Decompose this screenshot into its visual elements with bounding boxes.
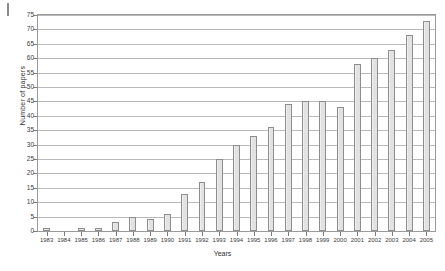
x-axis-tick-mark: [47, 232, 48, 236]
x-axis-title: Years: [0, 250, 445, 257]
x-axis-tick-mark: [237, 232, 238, 236]
y-axis-tick-mark: [33, 159, 37, 160]
y-axis-tick-label: 50: [10, 83, 34, 90]
y-axis-tick-label: 75: [10, 11, 34, 18]
bar-1983: [43, 228, 50, 231]
bar-2005: [423, 21, 430, 231]
y-axis-tick-label: 25: [10, 155, 34, 162]
y-axis-tick-label: 55: [10, 69, 34, 76]
y-axis-tick-mark: [33, 188, 37, 189]
bar-1996: [268, 127, 275, 231]
bar-1986: [95, 228, 102, 231]
x-axis-tick-mark: [254, 232, 255, 236]
x-axis-tick-mark: [64, 232, 65, 236]
bar-1988: [129, 217, 136, 231]
y-axis-tick-label: 40: [10, 112, 34, 119]
bar-2004: [406, 35, 413, 231]
x-axis-tick-mark: [202, 232, 203, 236]
x-axis-tick-mark: [185, 232, 186, 236]
bar-1987: [112, 222, 119, 231]
y-axis-tick-mark: [33, 29, 37, 30]
y-axis-tick-label: 0: [10, 227, 34, 234]
bar-2002: [371, 58, 378, 231]
bar-1993: [216, 159, 223, 231]
bar-1985: [78, 228, 85, 231]
y-axis-tick-label: 60: [10, 54, 34, 61]
scan-artifact-mark: [7, 3, 9, 16]
bar-1991: [181, 194, 188, 231]
y-axis-tick-mark: [33, 44, 37, 45]
x-axis-tick-mark: [340, 232, 341, 236]
y-axis-tick-label: 65: [10, 40, 34, 47]
y-axis-tick-label: 30: [10, 141, 34, 148]
x-axis-tick-label: 2005: [411, 237, 441, 243]
x-axis-tick-mark: [133, 232, 134, 236]
y-axis-tick-label: 45: [10, 97, 34, 104]
x-axis-tick-mark: [426, 232, 427, 236]
x-axis-tick-mark: [271, 232, 272, 236]
y-axis-tick-mark: [33, 217, 37, 218]
x-axis-tick-mark: [219, 232, 220, 236]
y-axis-tick-mark: [33, 173, 37, 174]
x-axis-tick-mark: [98, 232, 99, 236]
x-axis-tick-mark: [150, 232, 151, 236]
y-axis-tick-mark: [33, 58, 37, 59]
bar-2003: [388, 50, 395, 231]
y-axis-tick-label: 5: [10, 213, 34, 220]
y-axis-tick-label: 15: [10, 184, 34, 191]
y-axis-tick-mark: [33, 101, 37, 102]
bar-1995: [250, 136, 257, 231]
x-axis-tick-mark: [167, 232, 168, 236]
bar-1990: [164, 214, 171, 231]
y-axis-tick-mark: [33, 145, 37, 146]
bar-series: [38, 15, 435, 231]
bar-chart-figure: Number of papers Years 05101520253035404…: [0, 0, 445, 271]
x-axis-tick-mark: [409, 232, 410, 236]
y-axis-tick-mark: [33, 73, 37, 74]
bar-1992: [199, 182, 206, 231]
y-axis-tick-mark: [33, 15, 37, 16]
y-axis-tick-mark: [33, 116, 37, 117]
bar-1989: [147, 219, 154, 231]
y-axis-tick-label: 35: [10, 126, 34, 133]
x-axis-tick-mark: [116, 232, 117, 236]
y-axis-tick-mark: [33, 87, 37, 88]
x-axis-tick-mark: [392, 232, 393, 236]
bar-1998: [302, 101, 309, 231]
x-axis-tick-mark: [81, 232, 82, 236]
y-axis-tick-label: 20: [10, 169, 34, 176]
bar-2000: [337, 107, 344, 231]
x-axis-tick-mark: [288, 232, 289, 236]
y-axis-tick-mark: [33, 130, 37, 131]
x-axis-tick-mark: [323, 232, 324, 236]
y-axis-tick-mark: [33, 231, 37, 232]
bar-1994: [233, 145, 240, 231]
y-axis-tick-mark: [33, 202, 37, 203]
bar-1999: [319, 101, 326, 231]
y-axis-tick-label: 10: [10, 198, 34, 205]
y-axis-tick-label: 70: [10, 25, 34, 32]
bar-1997: [285, 104, 292, 231]
bar-2001: [354, 64, 361, 231]
x-axis-tick-mark: [306, 232, 307, 236]
x-axis-tick-mark: [375, 232, 376, 236]
x-axis-tick-mark: [357, 232, 358, 236]
